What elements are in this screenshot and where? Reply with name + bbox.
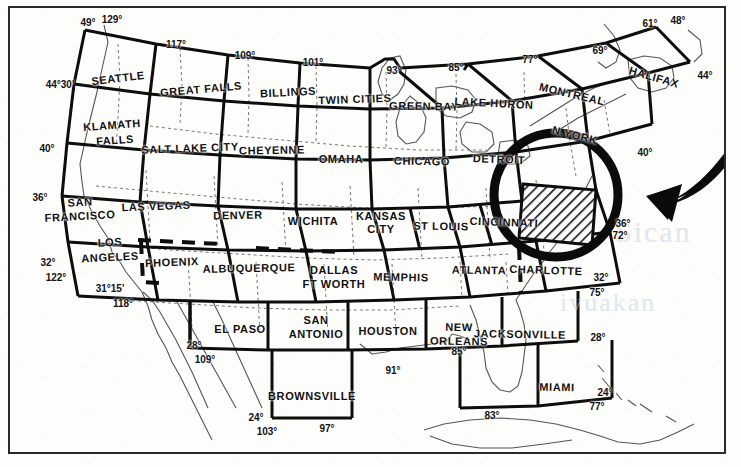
chart-cell-label[interactable]: DETROIT xyxy=(473,152,526,166)
chart-cell-label[interactable]: HOUSTON xyxy=(358,325,417,337)
chart-cell-label[interactable]: ALBUQUERQUE xyxy=(203,261,296,275)
coordinate-label: 91° xyxy=(385,365,400,376)
coordinate-label: 49° xyxy=(80,17,95,28)
coordinate-label: 24° xyxy=(597,387,612,398)
chart-cell-label[interactable]: ANTONIO xyxy=(289,328,344,340)
coordinate-label: 32° xyxy=(40,257,55,268)
coordinate-label: 24° xyxy=(248,412,263,423)
coordinate-label: 44° xyxy=(697,70,712,81)
coordinate-label: 122° xyxy=(46,272,67,283)
coordinate-label: 85° xyxy=(451,346,466,357)
coordinate-label: 31°15' xyxy=(96,283,125,294)
coordinate-label: 118° xyxy=(113,298,133,309)
chart-cell-label[interactable]: KANSAS xyxy=(356,210,406,222)
coordinate-label: 109° xyxy=(235,50,256,61)
coordinate-label: 40° xyxy=(637,147,652,158)
chart-cell-label[interactable]: LOS xyxy=(97,235,122,248)
chart-cell-label[interactable]: BILLINGS xyxy=(260,85,317,100)
coordinate-label: 93° xyxy=(386,65,401,76)
chart-cell-label[interactable]: KLAMATH xyxy=(83,117,141,133)
coordinate-label: 129° xyxy=(102,14,123,25)
coordinate-label: 77° xyxy=(589,401,604,412)
chart-cell-label[interactable]: CHEYENNE xyxy=(239,143,305,156)
chart-cell-label[interactable]: MONTREAL xyxy=(538,81,606,108)
coordinate-label: 36° xyxy=(32,192,47,203)
chart-cell-label[interactable]: MIAMI xyxy=(539,381,575,394)
chart-cell-label[interactable]: GREEN BAY xyxy=(389,99,459,112)
chart-cell-label[interactable]: LAS VEGAS xyxy=(121,199,190,213)
chart-cell-label[interactable]: FT WORTH xyxy=(303,278,366,290)
map-labels-layer: SEATTLEGREAT FALLSBILLINGSTWIN CITIESGRE… xyxy=(0,0,741,467)
coordinate-label: 48° xyxy=(670,15,685,26)
coordinate-label: 109° xyxy=(195,354,216,365)
chart-cell-label[interactable]: OMAHA xyxy=(319,153,364,165)
chart-cell-label[interactable]: FRANCISCO xyxy=(44,208,115,224)
chart-cell-label[interactable]: JACKSONVILLE xyxy=(474,327,566,341)
chart-cell-label[interactable]: MEMPHIS xyxy=(373,271,429,284)
chart-index-page: Sican ivuakan SEATTLEGREAT FALLSBILLINGS… xyxy=(0,0,741,467)
chart-cell-label[interactable]: NEW xyxy=(445,321,473,333)
chart-cell-label[interactable]: N.YORK xyxy=(551,124,599,147)
coordinate-label: 101° xyxy=(303,57,324,68)
coordinate-label: 61° xyxy=(642,18,657,29)
coordinate-label: 40° xyxy=(39,143,54,154)
chart-cell-label[interactable]: DENVER xyxy=(213,209,263,222)
chart-cell-label[interactable]: SEATTLE xyxy=(91,69,146,87)
coordinate-label: 28° xyxy=(590,332,605,343)
coordinate-label: 44°30' xyxy=(46,79,75,90)
coordinate-label: 36° xyxy=(615,218,630,229)
coordinate-label: 83° xyxy=(484,410,499,421)
chart-cell-label[interactable]: GREAT FALLS xyxy=(160,79,243,98)
coordinate-label: 77° xyxy=(522,54,537,65)
chart-cell-label[interactable]: DALLAS xyxy=(310,264,358,276)
chart-cell-label[interactable]: WICHITA xyxy=(288,215,338,227)
chart-cell-label[interactable]: CHICAGO xyxy=(394,155,450,168)
chart-cell-label[interactable]: ANGELES xyxy=(81,250,139,265)
chart-cell-label[interactable]: HALIFAX xyxy=(628,64,681,90)
coordinate-label: 75° xyxy=(589,287,604,298)
chart-cell-label[interactable]: EL PASO xyxy=(214,323,265,335)
chart-cell-label[interactable]: PHOENIX xyxy=(145,255,199,269)
chart-cell-label[interactable]: ST LOUIS xyxy=(413,220,469,233)
chart-cell-label[interactable]: CITY xyxy=(367,223,394,235)
coordinate-label: 117° xyxy=(166,39,186,50)
chart-cell-label[interactable]: SAN xyxy=(67,195,93,208)
chart-cell-label[interactable]: BROWNSVILLE xyxy=(268,390,356,402)
coordinate-label: 28° xyxy=(186,340,201,351)
chart-cell-label[interactable]: SALT LAKE CITY xyxy=(141,140,239,155)
coordinate-label: 32° xyxy=(593,272,608,283)
coordinate-label: 97° xyxy=(319,423,334,434)
coordinate-label: 85° xyxy=(448,62,463,73)
coordinate-label: 72° xyxy=(612,230,627,241)
chart-cell-label[interactable]: TWIN CITIES xyxy=(318,92,392,107)
chart-cell-label[interactable]: LAKE HURON xyxy=(454,95,534,111)
coordinate-label: 103° xyxy=(257,426,278,437)
chart-cell-label[interactable]: FALLS xyxy=(96,133,135,148)
chart-cell-label[interactable]: CHARLOTTE xyxy=(509,263,583,278)
chart-cell-label[interactable]: ATLANTA xyxy=(452,264,507,277)
chart-cell-label[interactable]: CINCINNATI xyxy=(469,215,538,229)
chart-cell-label[interactable]: SAN xyxy=(303,314,328,326)
coordinate-label: 69° xyxy=(592,45,607,56)
